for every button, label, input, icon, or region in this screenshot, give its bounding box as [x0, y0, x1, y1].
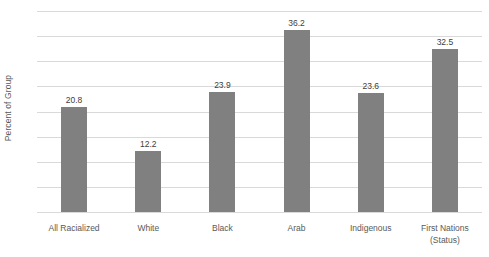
- bar-value-label: 12.2: [140, 139, 157, 149]
- bar-group[interactable]: 32.5: [408, 11, 482, 212]
- y-axis-title-text: Percent of Group: [3, 75, 13, 141]
- x-axis-tick-label: All Racialized: [49, 223, 100, 235]
- bar[interactable]: [135, 151, 161, 212]
- bar[interactable]: [432, 49, 458, 212]
- plot-area: 4035302520151050 20.812.223.936.223.632.…: [37, 11, 482, 212]
- bar-group[interactable]: 20.8: [37, 11, 111, 212]
- x-axis-tick-label: First Nations(Status): [421, 223, 469, 246]
- bars-layer: 20.812.223.936.223.632.5: [37, 11, 482, 212]
- x-axis-tick-label: White: [137, 223, 159, 235]
- bar-value-label: 32.5: [437, 37, 454, 47]
- x-axis-tick-label: Arab: [288, 223, 306, 235]
- y-axis-title: Percent of Group: [0, 0, 16, 216]
- bar-group[interactable]: 23.6: [334, 11, 408, 212]
- bar-chart: Percent of Group 4035302520151050 20.812…: [0, 0, 489, 257]
- x-axis-tick-labels: All RacializedWhiteBlackArabIndigenousFi…: [37, 214, 482, 257]
- bar-value-label: 36.2: [288, 18, 305, 28]
- x-axis-tick-label: Indigenous: [350, 223, 392, 235]
- bar-group[interactable]: 12.2: [111, 11, 185, 212]
- bar[interactable]: [209, 92, 235, 212]
- bar[interactable]: [284, 30, 310, 212]
- bar-group[interactable]: 36.2: [260, 11, 334, 212]
- bar-group[interactable]: 23.9: [185, 11, 259, 212]
- bar-value-label: 23.9: [214, 80, 231, 90]
- bar-value-label: 23.6: [362, 81, 379, 91]
- bar-value-label: 20.8: [66, 95, 83, 105]
- gridline: [37, 212, 482, 213]
- bar[interactable]: [61, 107, 87, 212]
- bar[interactable]: [358, 93, 384, 212]
- x-axis-tick-label: Black: [212, 223, 233, 235]
